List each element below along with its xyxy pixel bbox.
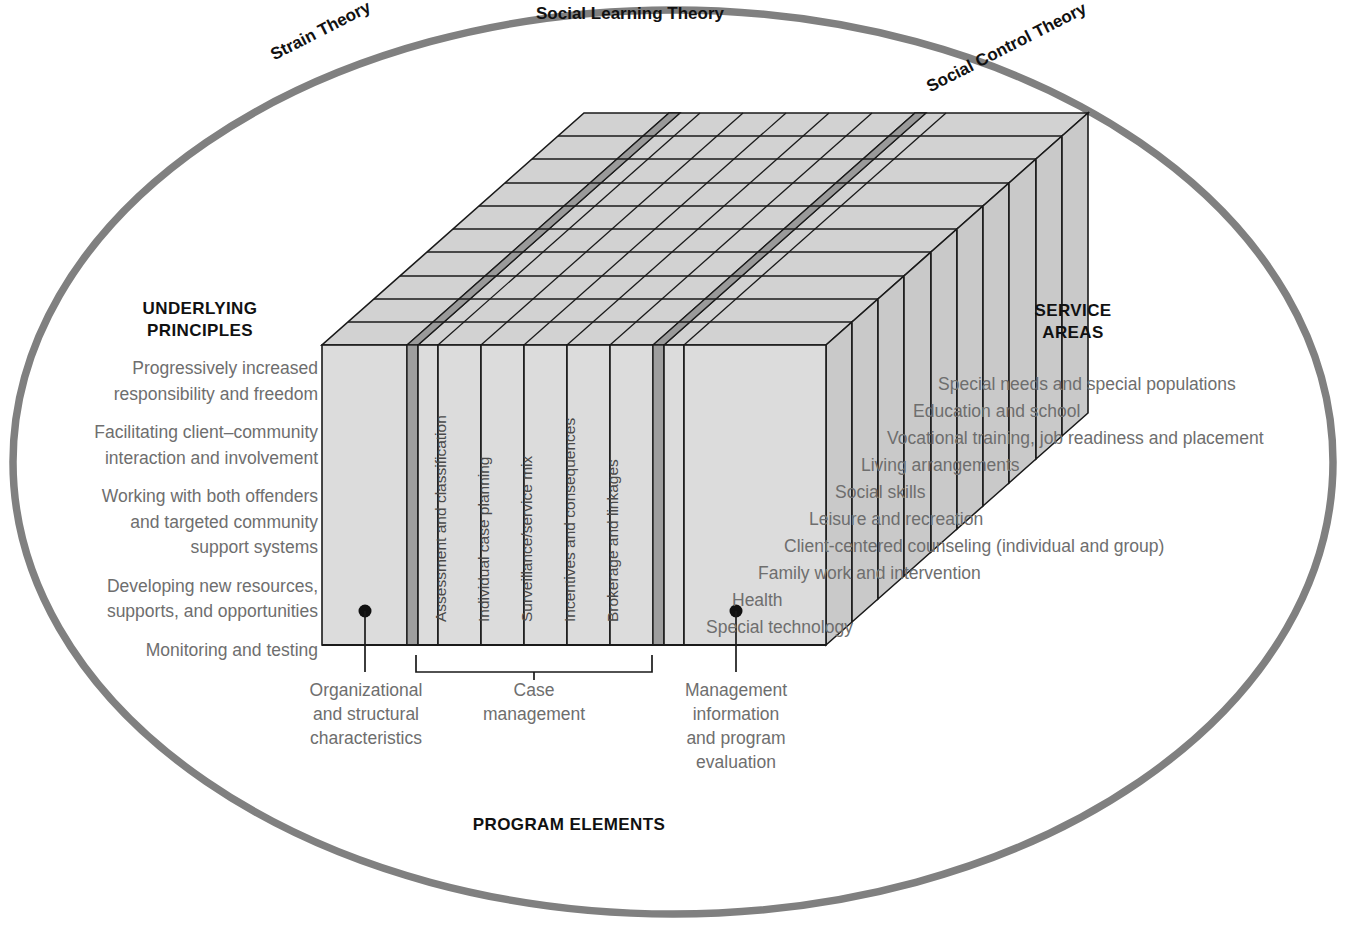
service-area-item: Special needs and special populations (938, 374, 1236, 395)
underlying-principles-list: Progressively increased responsibility a… (0, 356, 318, 676)
principle-item: Monitoring and testing (0, 638, 318, 664)
diagram-canvas: .face{fill:#dcdcdc;stroke:#1a1a1a;stroke… (0, 0, 1347, 929)
service-areas-heading: SERVICE AREAS (953, 300, 1193, 344)
slab-label-individual-case-planning: Individual case planning (475, 457, 493, 622)
callout-management-information-and-program-evaluation: Management information and program evalu… (636, 678, 836, 774)
service-areas-heading-line2: AREAS (953, 322, 1193, 344)
program-elements-axis-label: PROGRAM ELEMENTS (419, 814, 719, 836)
principle-item: Working with both offenders and targeted… (0, 484, 318, 561)
service-area-item: Social skills (835, 482, 925, 503)
service-area-item: Family work and intervention (758, 563, 981, 584)
service-area-item: Vocational training, job readiness and p… (887, 428, 1264, 449)
service-area-item: Education and school (913, 401, 1080, 422)
underlying-principles-heading: UNDERLYING PRINCIPLES (80, 298, 320, 342)
slab-label-incentives-and-consequences: Incentives and consequences (561, 418, 579, 622)
service-area-item: Living arrangements (861, 455, 1020, 476)
slab-label-surveillance-service-mix: Surveillance/service mix (518, 456, 536, 622)
service-area-item: Client-centered counseling (individual a… (784, 536, 1164, 557)
principle-item: Developing new resources, supports, and … (0, 574, 318, 625)
service-areas-heading-line1: SERVICE (953, 300, 1193, 322)
principle-item: Progressively increased responsibility a… (0, 356, 318, 407)
underlying-principles-heading-line1: UNDERLYING (80, 298, 320, 320)
slab-label-assessment-and-classification: Assessment and classification (432, 415, 450, 622)
slab-label-brokerage-and-linkages: Brokerage and linkages (604, 459, 622, 622)
service-area-item: Special technology (706, 617, 853, 638)
underlying-principles-heading-line2: PRINCIPLES (80, 320, 320, 342)
callout-case-management: Case management (444, 678, 624, 726)
principle-item: Facilitating client–community interactio… (0, 420, 318, 471)
service-area-item: Health (732, 590, 783, 611)
service-area-item: Leisure and recreation (809, 509, 983, 530)
theory-label-top: Social Learning Theory (536, 4, 724, 24)
